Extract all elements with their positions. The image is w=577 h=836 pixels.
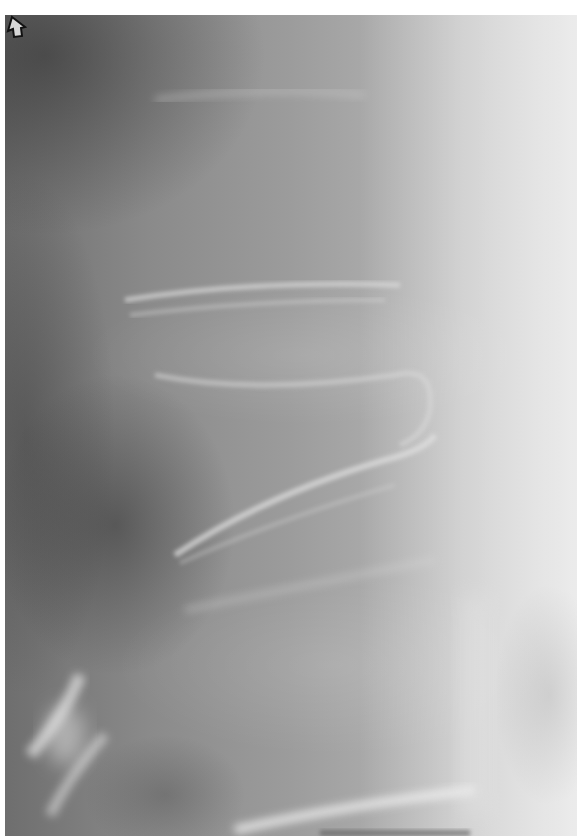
bone-structures bbox=[5, 15, 577, 836]
xray-image bbox=[5, 15, 577, 836]
outline-arrow-icon bbox=[5, 15, 27, 39]
